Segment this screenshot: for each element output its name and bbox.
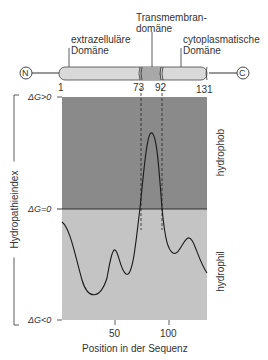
c-terminus-label: C	[239, 68, 246, 79]
cytoplasmic-domain-label: cytoplasmatische Domäne	[183, 34, 260, 56]
y-top-label: ΔG>0	[28, 92, 51, 103]
position-131: 131	[196, 84, 213, 95]
hydrophobic-label: hydrophob	[215, 123, 226, 183]
xaxis-title: Position in der Sequenz	[82, 343, 188, 354]
position-73: 73	[133, 82, 144, 93]
xtick-100: 100	[160, 328, 177, 339]
n-terminus-label: N	[22, 68, 29, 79]
hydrophobic-region	[62, 97, 207, 209]
hydrophilic-label: hydrophil	[215, 242, 226, 302]
hydrophilic-region	[62, 209, 207, 320]
y-bottom-label: ΔG<0	[28, 315, 51, 326]
position-92: 92	[155, 82, 166, 93]
yaxis-title: Hydropathieindex	[9, 162, 20, 258]
extracellular-domain-label: extrazelluläre Domäne	[71, 34, 130, 56]
xtick-50: 50	[109, 328, 120, 339]
position-1: 1	[58, 82, 64, 93]
transmembrane-domain-label: Transmembran- domäne	[136, 12, 207, 34]
y-mid-label: ΔG=0	[28, 204, 51, 215]
